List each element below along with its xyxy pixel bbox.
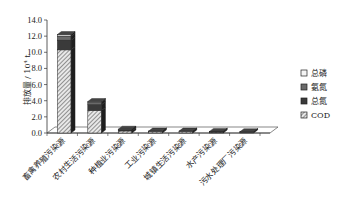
y-tick-label: 4.0 [31, 96, 42, 106]
bar-segment [88, 102, 102, 104]
legend-item: 总磷 [301, 68, 327, 78]
bar-stack [118, 126, 136, 133]
svg-text:氨氮: 氨氮 [311, 82, 327, 92]
y-tick-label: 14.0 [27, 15, 42, 25]
bar-segment [57, 50, 71, 133]
legend-item: COD [301, 111, 330, 120]
y-tick-label: 12.0 [27, 31, 42, 41]
chart: 0.02.04.06.08.010.012.014.0 畜禽养殖污染源农村生活污… [0, 0, 342, 220]
legend-item: 总氮 [301, 96, 327, 106]
svg-text:总磷: 总磷 [311, 68, 327, 78]
category-labels: 畜禽养殖污染源农村生活污染源种植业污染源工业污染源城镇生活污染源水产污染源污水处… [20, 135, 249, 187]
bar-segment [57, 40, 71, 50]
svg-text:总氮: 总氮 [311, 96, 327, 106]
bar-segment [88, 105, 102, 111]
bar-segment [88, 110, 102, 133]
y-tick-label: 8.0 [31, 63, 42, 73]
bar-stack [88, 99, 106, 133]
svg-text:COD: COD [311, 111, 330, 120]
bar-segment [57, 36, 71, 40]
bar-segment [57, 35, 71, 37]
bar-segment [118, 131, 132, 133]
bar-stack [57, 32, 75, 133]
legend: 总磷氨氮总氮COD [301, 68, 330, 120]
y-axis-label: 排放量 / 10⁴ t [22, 54, 32, 106]
bars [57, 32, 257, 133]
y-tick-label: 2.0 [31, 112, 42, 122]
legend-item: 氨氮 [301, 82, 327, 92]
y-tick-label: 6.0 [31, 80, 42, 90]
y-tick-label: 0.0 [31, 128, 42, 138]
